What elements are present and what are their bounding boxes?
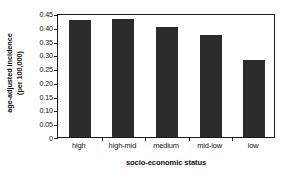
y-axis-tick-label: 0.15	[39, 92, 53, 101]
y-axis-tick-mark	[54, 111, 58, 112]
bar-chart-figure: age-adjusted incidence (per 100,000) 00.…	[0, 0, 290, 179]
plot-area	[57, 14, 275, 138]
y-axis-tick-label: 0.40	[39, 23, 53, 32]
bar	[69, 20, 91, 137]
y-axis-tick-mark	[54, 125, 58, 126]
x-axis-tick-label: high-mid	[109, 141, 137, 150]
y-axis-tick-label: 0.20	[39, 78, 53, 87]
y-axis-tick-labels: 00.050.100.150.200.250.300.350.400.45	[26, 0, 55, 179]
y-axis-title-line2: (per 100,000)	[15, 33, 25, 113]
y-axis-tick-mark	[54, 84, 58, 85]
x-axis-tick-label: low	[248, 141, 259, 150]
y-axis-tick-label: 0.05	[39, 120, 53, 129]
y-axis-tick-label: 0.10	[39, 106, 53, 115]
y-axis-tick-label: 0.30	[39, 51, 53, 60]
x-axis-title: socio-economic status	[57, 158, 275, 167]
y-axis-tick-mark	[54, 56, 58, 57]
y-axis-tick-mark	[54, 138, 58, 139]
plot-inner	[58, 15, 274, 137]
x-axis-tick-labels: highhigh-midmediummid-lowlow	[57, 141, 275, 153]
y-axis-tick-label: 0.45	[39, 10, 53, 19]
y-axis-tick-label: 0	[49, 134, 53, 143]
bar	[200, 35, 222, 137]
y-axis-tick-label: 0.35	[39, 37, 53, 46]
y-axis-tick-mark	[54, 15, 58, 16]
y-axis-tick-label: 0.25	[39, 65, 53, 74]
x-axis-tick-label: high	[72, 141, 86, 150]
y-axis-title-line1: age-adjusted incidence	[5, 33, 14, 113]
x-axis-tick-label: medium	[153, 141, 179, 150]
bar	[156, 27, 178, 137]
y-axis-tick-mark	[54, 70, 58, 71]
x-axis-tick-label: mid-low	[197, 141, 222, 150]
y-axis-tick-mark	[54, 98, 58, 99]
bar	[112, 19, 134, 137]
bar	[243, 60, 265, 137]
y-axis-tick-mark	[54, 29, 58, 30]
y-axis-tick-mark	[54, 43, 58, 44]
